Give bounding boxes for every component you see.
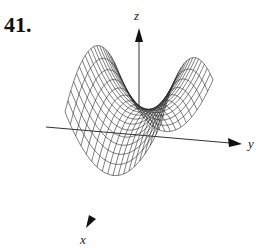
y-axis-label: y [248, 136, 254, 152]
mesh-line [79, 67, 175, 131]
z-axis-label: z [134, 8, 139, 24]
x-axis-label: x [80, 232, 86, 248]
surface-plot [0, 0, 261, 252]
mesh-line [105, 49, 201, 113]
x-axis [86, 215, 96, 228]
mesh-line [161, 58, 213, 124]
z-axis [135, 28, 143, 108]
mesh-line [76, 70, 128, 136]
